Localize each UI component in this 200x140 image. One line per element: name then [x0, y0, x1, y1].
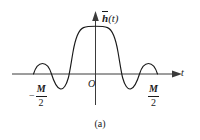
x-tick-label-left: − M 2 — [29, 84, 47, 108]
y-axis-arrowhead — [92, 11, 99, 21]
h-bar-symbol: h — [102, 12, 108, 24]
y-axis-label: h(t) — [102, 12, 119, 24]
fraction-denominator: 2 — [150, 98, 157, 109]
figure-container: h(t) O t − M 2 M 2 (a) — [0, 0, 200, 140]
fraction-denominator: 2 — [38, 98, 45, 109]
fraction: M 2 — [36, 84, 47, 108]
origin-label: O — [88, 79, 95, 89]
fraction-numerator: M — [36, 84, 47, 95]
x-axis-label: t — [181, 68, 184, 78]
h-bar-argument: (t) — [108, 12, 118, 24]
fraction-numerator: M — [148, 84, 159, 95]
minus-sign: − — [29, 90, 35, 102]
fraction: M 2 — [148, 84, 159, 108]
figure-caption: (a) — [0, 119, 200, 129]
x-tick-label-right: M 2 — [148, 84, 159, 108]
